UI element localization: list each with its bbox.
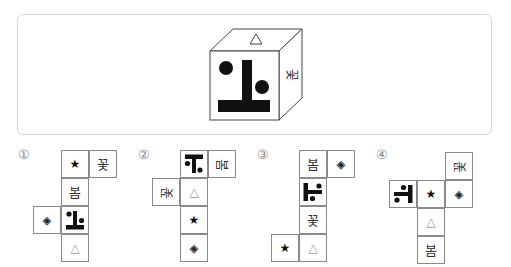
net-cell: △ xyxy=(61,234,89,262)
cube-right-text: 꽃 xyxy=(285,69,300,81)
net-cell: 꽃 xyxy=(299,206,327,234)
net-cell: 꽃 xyxy=(89,150,117,178)
net-cell: ★ xyxy=(417,180,445,208)
hangul-text: 꽃 xyxy=(160,186,173,198)
hangul-text: 봄 xyxy=(216,158,229,170)
triangle-icon: △ xyxy=(70,242,79,254)
hangul-text: 꽃 xyxy=(97,158,109,171)
figure-icon xyxy=(182,152,206,176)
diamond-icon: ◈ xyxy=(43,215,51,226)
diamond-icon: ◈ xyxy=(190,243,198,254)
triangle-icon: △ xyxy=(426,216,435,228)
star-icon: ★ xyxy=(189,214,200,226)
star-icon: ★ xyxy=(426,188,437,200)
hangul-text: 꽃 xyxy=(307,214,319,227)
diamond-icon: ◈ xyxy=(455,189,463,200)
net-cell: ★ xyxy=(61,150,89,178)
net-cell: ★ xyxy=(180,206,208,234)
triangle-icon: △ xyxy=(189,186,198,198)
option-label: ① xyxy=(18,147,30,162)
hangul-text: 꽃 xyxy=(453,160,466,172)
hangul-text: 봄 xyxy=(69,186,81,199)
net-cell: 봄 xyxy=(61,178,89,206)
star-icon: ★ xyxy=(280,242,291,254)
net-cell xyxy=(299,178,327,206)
net-cell: ★ xyxy=(271,234,299,262)
net-cell: ◈ xyxy=(33,206,61,234)
net-cell: ◈ xyxy=(180,234,208,262)
figure-icon xyxy=(63,208,87,232)
figure-icon xyxy=(391,182,415,206)
star-icon: ★ xyxy=(70,158,81,170)
net-cell xyxy=(180,150,208,178)
net-cell xyxy=(61,206,89,234)
hangul-text: 봄 xyxy=(307,158,319,171)
option-label: ④ xyxy=(376,147,388,162)
cube-figure: 꽃 xyxy=(0,0,511,140)
net-cell: 꽃 xyxy=(445,152,473,180)
net-cell xyxy=(389,180,417,208)
net-cell: 봄 xyxy=(417,236,445,264)
net-cell: ◈ xyxy=(327,150,355,178)
net-cell: △ xyxy=(417,208,445,236)
option-label: ③ xyxy=(257,147,269,162)
net-cell: 봄 xyxy=(299,150,327,178)
net-cell: 봄 xyxy=(208,150,236,178)
net-cell: △ xyxy=(299,234,327,262)
diamond-icon: ◈ xyxy=(337,159,345,170)
hangul-text: 봄 xyxy=(425,244,437,257)
figure-icon xyxy=(301,180,325,204)
net-cell: △ xyxy=(180,178,208,206)
net-cell: ◈ xyxy=(445,180,473,208)
triangle-icon: △ xyxy=(308,242,317,254)
option-label: ② xyxy=(138,147,150,162)
net-cell: 꽃 xyxy=(152,178,180,206)
